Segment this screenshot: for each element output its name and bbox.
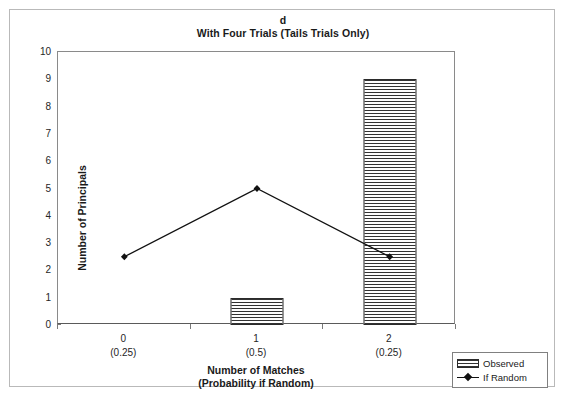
- y-axis-tick-label: 6: [29, 155, 51, 166]
- x-category-value: 2: [322, 332, 455, 346]
- x-axis-tick-mark: [190, 324, 191, 329]
- x-axis-tick-mark: [57, 324, 58, 329]
- legend-item-observed: Observed: [457, 356, 543, 370]
- chart-legend: Observed If Random: [452, 352, 548, 388]
- x-axis-title-line2: (Probability if Random): [57, 377, 455, 390]
- plot-area: Number of Principals: [57, 51, 455, 324]
- chart-panel-letter: d: [0, 14, 566, 26]
- chart-figure: d With Four Trials (Tails Trials Only) 1…: [0, 0, 566, 398]
- y-axis-tick-label: 4: [29, 209, 51, 220]
- x-axis-title-line1: Number of Matches: [57, 364, 455, 377]
- y-axis-title: Number of Principals: [76, 118, 88, 318]
- x-axis-category-label: 1(0.5): [190, 332, 323, 366]
- bar-observed: [231, 298, 284, 325]
- x-axis-category-label: 2(0.25): [322, 332, 455, 366]
- legend-label-if-random: If Random: [483, 372, 527, 383]
- x-axis-tick-mark: [322, 324, 323, 329]
- y-axis-tick-label: 8: [29, 100, 51, 111]
- x-axis-category-label: 0(0.25): [57, 332, 190, 366]
- x-axis-tick-marks: [57, 324, 455, 330]
- y-axis-tick-label: 10: [29, 46, 51, 57]
- y-axis-tick-label: 1: [29, 291, 51, 302]
- y-axis-tick-label: 3: [29, 237, 51, 248]
- hatched-bar-swatch-icon: [457, 359, 479, 368]
- y-axis-tick-label: 9: [29, 73, 51, 84]
- x-category-probability: (0.25): [322, 346, 455, 360]
- line-marker-swatch-icon: [457, 373, 479, 382]
- x-axis-tick-mark: [455, 324, 456, 329]
- x-axis-category-labels: 0(0.25)1(0.5)2(0.25): [57, 332, 455, 366]
- x-category-probability: (0.5): [190, 346, 323, 360]
- bar-observed: [363, 79, 416, 325]
- bar-slot: [191, 52, 324, 325]
- bar-slot: [323, 52, 456, 325]
- legend-label-observed: Observed: [483, 358, 524, 369]
- y-axis-tick-label: 2: [29, 264, 51, 275]
- x-category-value: 1: [190, 332, 323, 346]
- legend-item-if-random: If Random: [457, 370, 543, 384]
- y-axis-tick-label: 0: [29, 319, 51, 330]
- y-axis-tick-label: 5: [29, 182, 51, 193]
- chart-title: With Four Trials (Tails Trials Only): [0, 27, 566, 39]
- y-axis-tick-labels: 109876543210: [25, 51, 51, 324]
- y-axis-tick-label: 7: [29, 127, 51, 138]
- x-category-value: 0: [57, 332, 190, 346]
- x-category-probability: (0.25): [57, 346, 190, 360]
- x-axis-title: Number of Matches (Probability if Random…: [57, 364, 455, 390]
- bar-series-observed: [58, 52, 456, 325]
